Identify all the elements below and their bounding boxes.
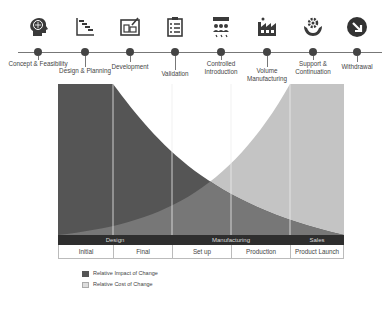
timeline-stem — [130, 56, 131, 62]
column-set-up: Set up — [172, 245, 231, 258]
stage-label: Withdrawal — [327, 63, 387, 71]
team-presentation-icon — [210, 16, 232, 38]
column-production: Production — [231, 245, 290, 258]
legend-swatch-cost — [82, 282, 89, 288]
brain-head-icon — [27, 16, 49, 38]
legend-cost: Relative Cost of Change — [82, 281, 153, 288]
column-product-launch: Product Launch — [290, 245, 344, 258]
timeline-dot — [263, 48, 271, 56]
phase-design: Design — [58, 235, 172, 245]
gantt-chart-icon — [74, 16, 96, 38]
factory-icon — [256, 16, 278, 38]
column-initial: Initial — [58, 245, 113, 258]
legend-label: Relative Cost of Change — [93, 281, 153, 287]
clipboard-checklist-icon — [164, 16, 186, 38]
timeline-dot — [171, 48, 179, 56]
legend-label: Relative Impact of Change — [93, 270, 158, 276]
timeline-dot — [309, 48, 317, 56]
timeline-stem — [267, 56, 268, 67]
timeline-dot — [34, 48, 42, 56]
column-final: Final — [113, 245, 172, 258]
column-labels: Initial Final Set up Production Product … — [58, 245, 344, 259]
arrow-down-right-circle-icon — [346, 16, 368, 38]
timeline-stem — [357, 56, 358, 62]
gear-hands-icon — [302, 16, 324, 38]
phase-sales: Sales — [290, 235, 344, 245]
timeline-dot — [217, 48, 225, 56]
blueprint-icon — [119, 16, 141, 38]
timeline-dot — [81, 48, 89, 56]
timeline-dot — [126, 48, 134, 56]
phase-manufacturing: Manufacturing — [172, 235, 290, 245]
timeline-dot — [353, 48, 361, 56]
timeline-stem — [85, 56, 86, 67]
legend-swatch-impact — [82, 271, 89, 277]
impact-cost-chart — [58, 84, 344, 235]
phase-bar: Design Manufacturing Sales — [58, 235, 344, 245]
legend-impact: Relative Impact of Change — [82, 270, 158, 277]
timeline-stem — [175, 56, 176, 70]
timeline-line — [18, 52, 382, 53]
